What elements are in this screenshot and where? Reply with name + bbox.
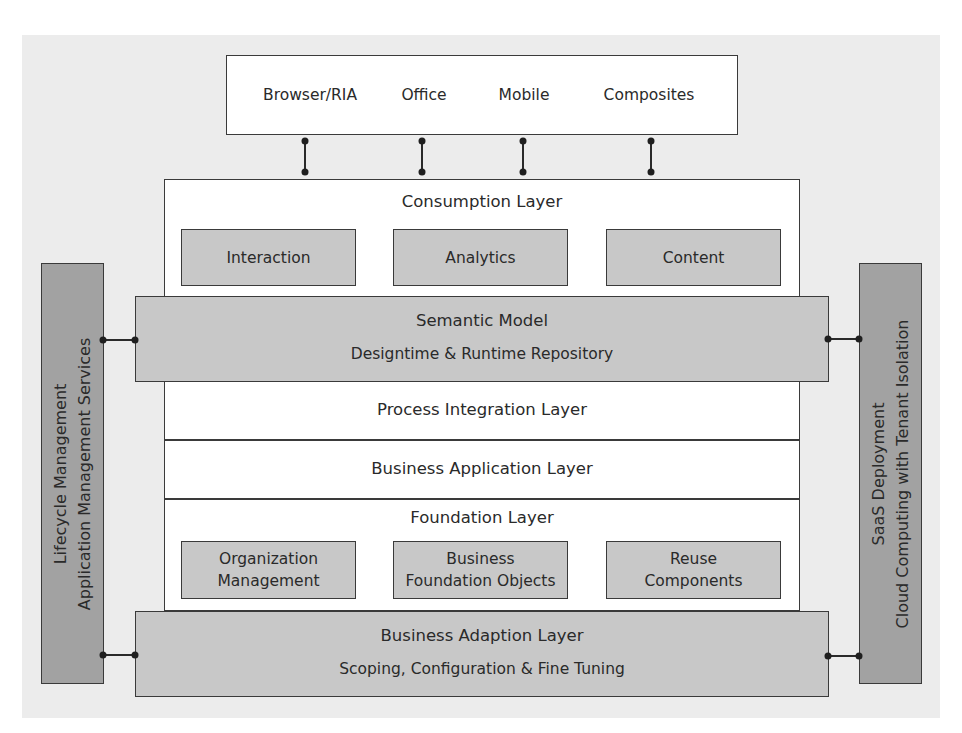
component-interaction-label: Interaction bbox=[226, 247, 310, 269]
business-adaption-band: Business Adaption Layer Scoping, Configu… bbox=[135, 611, 829, 697]
component-reuse-components: Reuse Components bbox=[606, 541, 781, 599]
lifecycle-management-pillar: Lifecycle Management Application Managem… bbox=[41, 263, 104, 684]
component-reuse-line1: Reuse bbox=[670, 548, 717, 570]
divider-line bbox=[164, 439, 800, 441]
component-bfo-line1: Business bbox=[446, 548, 514, 570]
client-office: Office bbox=[401, 86, 446, 104]
component-interaction: Interaction bbox=[181, 229, 356, 286]
component-business-foundation-objects: Business Foundation Objects bbox=[393, 541, 568, 599]
component-analytics-label: Analytics bbox=[445, 247, 515, 269]
component-org-line1: Organization bbox=[219, 548, 318, 570]
business-application-layer: Business Application Layer bbox=[164, 459, 800, 478]
business-adaption-subtitle: Scoping, Configuration & Fine Tuning bbox=[136, 660, 828, 678]
divider-line bbox=[164, 498, 800, 500]
component-content-label: Content bbox=[663, 247, 725, 269]
saas-deployment-text: SaaS Deployment Cloud Computing with Ten… bbox=[867, 319, 915, 628]
lifecycle-management-text: Lifecycle Management Application Managem… bbox=[49, 337, 97, 609]
foundation-layer-title: Foundation Layer bbox=[164, 508, 800, 527]
component-content: Content bbox=[606, 229, 781, 286]
left-pillar-line1: Lifecycle Management bbox=[49, 337, 73, 609]
client-browser-ria: Browser/RIA bbox=[263, 86, 357, 104]
right-pillar-line1: SaaS Deployment bbox=[867, 319, 891, 628]
component-bfo-line2: Foundation Objects bbox=[405, 570, 555, 592]
component-reuse-line2: Components bbox=[644, 570, 742, 592]
component-analytics: Analytics bbox=[393, 229, 568, 286]
right-pillar-line2: Cloud Computing with Tenant Isolation bbox=[891, 319, 915, 628]
client-mobile: Mobile bbox=[499, 86, 550, 104]
semantic-model-band: Semantic Model Designtime & Runtime Repo… bbox=[135, 296, 829, 382]
semantic-model-subtitle: Designtime & Runtime Repository bbox=[136, 345, 828, 363]
business-adaption-title: Business Adaption Layer bbox=[136, 626, 828, 645]
component-organization-management: Organization Management bbox=[181, 541, 356, 599]
consumption-layer-title: Consumption Layer bbox=[164, 192, 800, 211]
process-integration-layer: Process Integration Layer bbox=[164, 400, 800, 419]
client-composites: Composites bbox=[604, 86, 695, 104]
semantic-model-title: Semantic Model bbox=[136, 311, 828, 330]
left-pillar-line2: Application Management Services bbox=[73, 337, 97, 609]
component-org-line2: Management bbox=[217, 570, 319, 592]
saas-deployment-pillar: SaaS Deployment Cloud Computing with Ten… bbox=[859, 263, 922, 684]
